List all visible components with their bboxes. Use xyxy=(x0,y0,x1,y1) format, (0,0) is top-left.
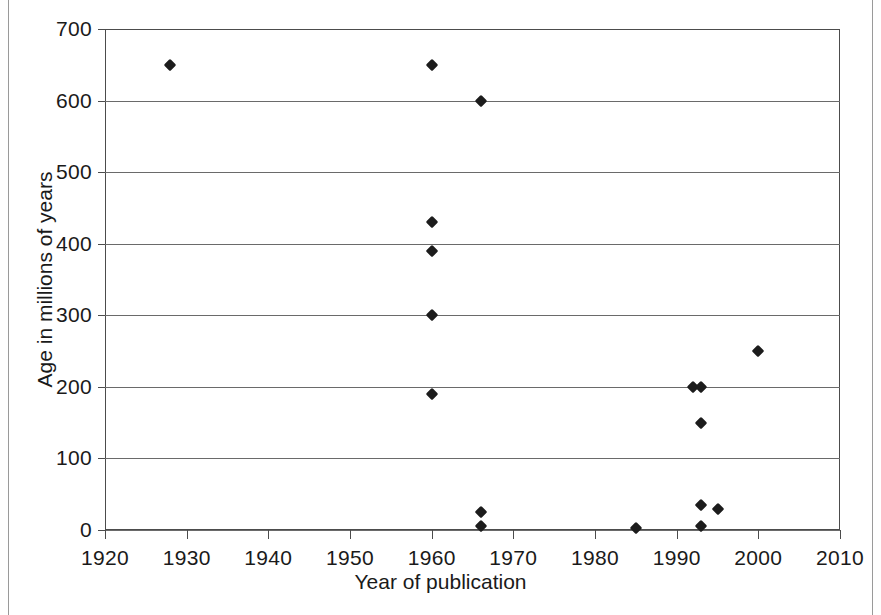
y-tick-mark xyxy=(98,101,105,102)
x-tick-label: 1930 xyxy=(163,546,211,570)
y-tick-mark xyxy=(98,315,105,316)
x-tick-mark xyxy=(350,530,351,539)
plot-area: 0100200300400500600700 19201930194019501… xyxy=(105,29,840,530)
x-tick-mark xyxy=(758,530,759,539)
plot-frame xyxy=(105,29,840,530)
gridline xyxy=(105,172,840,173)
x-tick-label: 1920 xyxy=(81,546,129,570)
y-tick-label: 200 xyxy=(56,375,92,399)
x-tick-label: 1960 xyxy=(408,546,456,570)
x-tick-label: 1970 xyxy=(489,546,537,570)
x-tick-label: 1980 xyxy=(571,546,619,570)
gridline xyxy=(105,530,840,531)
gridline xyxy=(105,458,840,459)
y-tick-label: 0 xyxy=(80,518,92,542)
page-border-left-rule xyxy=(8,0,9,615)
y-tick-mark xyxy=(98,172,105,173)
gridline xyxy=(105,315,840,316)
x-tick-mark xyxy=(595,530,596,539)
y-tick-mark xyxy=(98,458,105,459)
y-tick-mark xyxy=(98,244,105,245)
x-tick-mark xyxy=(677,530,678,539)
x-tick-label: 1940 xyxy=(244,546,292,570)
y-tick-mark xyxy=(98,530,105,531)
x-tick-label: 2010 xyxy=(816,546,864,570)
page-border-right-rule xyxy=(872,0,873,615)
y-tick-label: 300 xyxy=(56,303,92,327)
x-tick-mark xyxy=(105,530,106,539)
y-tick-label: 400 xyxy=(56,232,92,256)
x-tick-label: 2000 xyxy=(734,546,782,570)
y-tick-mark xyxy=(98,387,105,388)
x-tick-mark xyxy=(268,530,269,539)
y-tick-label: 100 xyxy=(56,446,92,470)
x-tick-mark xyxy=(840,530,841,539)
x-tick-mark xyxy=(513,530,514,539)
x-tick-label: 1990 xyxy=(653,546,701,570)
scatter-chart-figure: 0100200300400500600700 19201930194019501… xyxy=(0,0,881,615)
x-tick-mark xyxy=(187,530,188,539)
x-tick-mark xyxy=(432,530,433,539)
x-axis-title: Year of publication xyxy=(0,570,881,594)
gridline xyxy=(105,387,840,388)
y-tick-label: 600 xyxy=(56,89,92,113)
y-axis-title: Age in millions of years xyxy=(30,29,60,530)
y-tick-label: 700 xyxy=(56,17,92,41)
y-tick-label: 500 xyxy=(56,160,92,184)
y-tick-mark xyxy=(98,29,105,30)
gridline xyxy=(105,244,840,245)
gridline xyxy=(105,101,840,102)
x-tick-label: 1950 xyxy=(326,546,374,570)
